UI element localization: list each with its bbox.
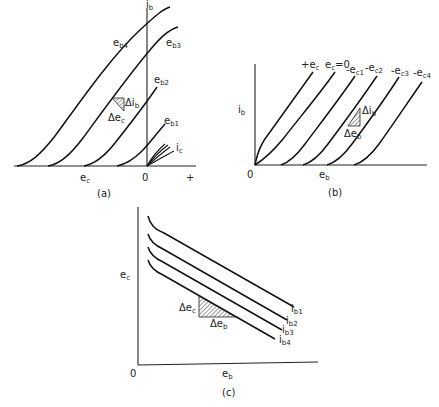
panel-b-label-ec1: -ec1 [346, 64, 364, 77]
panel-c-y-label: ec [120, 269, 130, 282]
panel-c-x-axis [138, 362, 318, 365]
panel-a-label-eb1: eb1 [164, 115, 179, 128]
panel-a-delta-ib-label: Δib [125, 97, 140, 110]
panel-b-delta-eb-label: Δeb [344, 128, 362, 141]
panel-a-label-ic: ic [176, 142, 183, 155]
panel-a-label-eb4: eb4 [113, 37, 129, 50]
panel-a-grid-current-fan [147, 144, 174, 166]
panel-b-y-label: ib [238, 104, 246, 117]
panel-c-delta-ec-label: Δec [179, 302, 196, 315]
panel-a-delta-ec-label: Δec [108, 112, 125, 125]
panel-b-curve-ec2 [303, 76, 377, 165]
panel-a-label-eb3: eb3 [166, 37, 181, 50]
panel-a-label-eb2: eb2 [154, 74, 169, 87]
panel-b-label-ec2: -ec2 [365, 62, 383, 75]
panel-c-origin-label: 0 [130, 368, 136, 379]
panel-b-curve-ec1 [281, 76, 355, 165]
panel-a-caption: (a) [97, 188, 111, 199]
panel-a-delta-triangle [112, 98, 124, 111]
panel-b-plate-characteristics: ib +ec ec=0 -ec1 -ec2 -ec3 -ec4 Δib Δeb … [238, 59, 432, 198]
panel-b-curve-ec3 [327, 77, 399, 165]
panel-b-delta-triangle [348, 108, 360, 126]
panel-b-origin-label: 0 [247, 169, 253, 180]
panel-b-x-label: eb [319, 169, 330, 182]
panel-c-caption: (c) [222, 387, 235, 398]
panel-c-delta-eb-label: Δeb [210, 318, 228, 331]
panel-a-x-label: ec [80, 172, 90, 185]
panel-b-curve-plus-ec [255, 72, 313, 165]
panel-a-plus-label: + [186, 172, 194, 183]
panel-c-label-ib2: ib2 [286, 315, 298, 328]
panel-b-label-ec4: -ec4 [413, 67, 432, 80]
panel-b-label-ec3: -ec3 [391, 65, 409, 78]
panel-b-delta-ib-label: Δib [362, 105, 377, 118]
panel-c-label-ib1: ib1 [291, 303, 303, 316]
panel-c-delta-triangle [199, 296, 236, 317]
panel-c-curve-ib1 [148, 216, 294, 307]
triode-characteristics-figure: ib eb4 eb3 eb2 eb1 ic Δib Δec ec 0 + (a)… [0, 0, 439, 407]
panel-a-origin-label: 0 [142, 172, 148, 183]
panel-c-constant-current-characteristics: ec ib1 ib2 ib3 ib4 Δec Δeb 0 eb (c) [120, 207, 318, 398]
panel-b-label-plus-ec: +ec [301, 59, 320, 72]
panel-c-x-label: eb [222, 368, 233, 381]
panel-a-mutual-characteristics: ib eb4 eb3 eb2 eb1 ic Δib Δec ec 0 + (a) [14, 0, 196, 199]
panel-b-caption: (b) [328, 187, 342, 198]
